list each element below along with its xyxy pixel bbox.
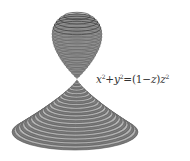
contour-ring xyxy=(74,82,79,84)
upper-teardrop-lobe xyxy=(52,12,102,79)
minus-sign: − xyxy=(142,73,151,85)
exp-z: 2 xyxy=(166,73,170,80)
lower-cone xyxy=(12,80,138,150)
contour-ring xyxy=(75,81,78,82)
equals-sign: = xyxy=(123,73,132,85)
plus-sign: + xyxy=(105,73,114,85)
equation-label: x2+y2=(1−z)z2 xyxy=(96,73,169,85)
